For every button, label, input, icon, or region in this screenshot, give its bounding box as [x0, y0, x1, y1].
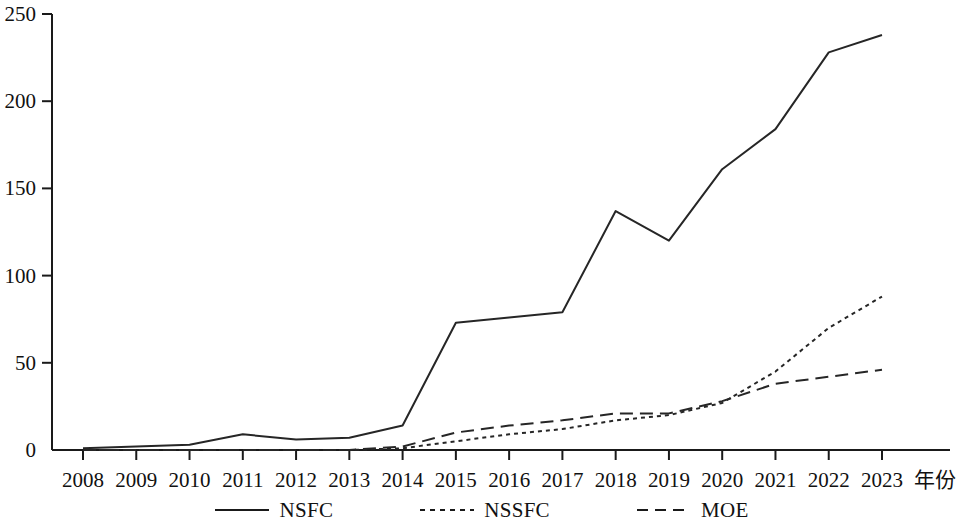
- legend-line-solid-icon: [214, 503, 270, 517]
- data-series-group: [83, 35, 882, 450]
- x-axis-tick-label: 2022: [808, 470, 850, 491]
- x-axis-tick-label: 2010: [169, 470, 211, 491]
- x-axis-tick-label: 2012: [275, 470, 317, 491]
- y-axis-tick-label: 100: [0, 265, 36, 286]
- x-axis-tick-label: 2017: [541, 470, 583, 491]
- x-axis-tick-label: 2008: [62, 470, 104, 491]
- x-axis-ticks: [83, 450, 882, 460]
- x-axis-tick-label: 2018: [595, 470, 637, 491]
- x-axis-title: 年份: [914, 470, 956, 491]
- y-axis-tick-label: 200: [0, 91, 36, 112]
- x-axis-tick-label: 2019: [648, 470, 690, 491]
- legend-label-nssfc: NSSFC: [484, 500, 550, 521]
- legend-line-dotted-icon: [419, 503, 475, 517]
- x-axis-tick-label: 2009: [115, 470, 157, 491]
- legend-line-dashed-icon: [636, 503, 692, 517]
- x-axis-tick-label: 2014: [382, 470, 424, 491]
- plot-area: [0, 0, 963, 528]
- legend-item-nsfc[interactable]: NSFC: [214, 500, 333, 521]
- legend-item-moe[interactable]: MOE: [636, 500, 749, 521]
- x-axis-tick-label: 2013: [328, 470, 370, 491]
- x-axis-tick-label: 2016: [488, 470, 530, 491]
- x-axis-tick-label: 2011: [222, 470, 263, 491]
- y-axis-tick-label: 250: [0, 4, 36, 25]
- y-axis-tick-label: 0: [0, 440, 36, 461]
- chart-legend: NSFC NSSFC MOE: [0, 492, 963, 528]
- legend-label-moe: MOE: [701, 500, 749, 521]
- x-axis-tick-label: 2023: [861, 470, 903, 491]
- axis-lines: [52, 14, 950, 450]
- line-chart: 050100150200250 200820092010201120122013…: [0, 0, 963, 528]
- x-axis-tick-label: 2015: [435, 470, 477, 491]
- series-line-nsfc: [83, 35, 882, 448]
- y-axis-tick-label: 150: [0, 178, 36, 199]
- y-axis-ticks: [42, 14, 52, 363]
- x-axis-tick-label: 2020: [701, 470, 743, 491]
- y-axis-tick-label: 50: [0, 352, 36, 373]
- x-axis-tick-label: 2021: [754, 470, 796, 491]
- legend-item-nssfc[interactable]: NSSFC: [419, 500, 550, 521]
- legend-label-nsfc: NSFC: [279, 500, 333, 521]
